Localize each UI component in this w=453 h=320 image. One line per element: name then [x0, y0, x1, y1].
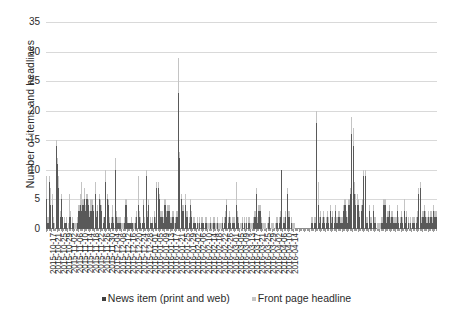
x-axis-tick-labels: 2015-10-172015-10-212015-10-252015-10-29…	[46, 233, 437, 287]
bar-news-item	[210, 223, 211, 229]
y-tick-label: 15	[14, 135, 40, 145]
legend-swatch-icon	[102, 297, 106, 301]
bar-news-item	[214, 223, 215, 229]
plot-area	[46, 22, 437, 229]
bar-news-item	[269, 217, 270, 229]
bar-news-item	[120, 223, 121, 229]
y-tick-label: 0	[14, 224, 40, 234]
legend-item[interactable]: News item (print and web)	[102, 292, 230, 304]
y-tick-label: 20	[14, 106, 40, 116]
bar-news-item	[408, 223, 409, 229]
bar-news-item	[172, 217, 173, 229]
bar-news-item	[365, 176, 366, 229]
bar-news-item	[244, 223, 245, 229]
bar-news-item	[132, 223, 133, 229]
bar-news-item	[217, 223, 218, 229]
y-tick-label: 25	[14, 76, 40, 86]
legend-label: News item (print and web)	[108, 292, 230, 304]
bar-news-item	[197, 223, 198, 229]
bar-news-item	[249, 223, 250, 229]
bar-news-item	[66, 223, 67, 229]
y-tick-label: 30	[14, 47, 40, 57]
legend-item[interactable]: Front page headline	[252, 292, 351, 304]
bar-news-item	[291, 223, 292, 229]
y-tick-label: 35	[14, 17, 40, 27]
chart-legend: News item (print and web)Front page head…	[0, 292, 453, 304]
bar-news-item	[261, 223, 262, 229]
bar-news-item	[281, 170, 282, 229]
bar-chart: Number of items and headlines 0510152025…	[0, 0, 453, 320]
bar-news-item	[53, 223, 54, 229]
bar-news-item	[206, 223, 207, 229]
bar-front-page-headline	[293, 223, 294, 229]
bars-layer	[46, 22, 437, 229]
x-tick-label: 2016-04-14	[292, 233, 300, 274]
bar-news-item	[73, 223, 74, 229]
bar-news-item	[436, 217, 437, 229]
y-tick-label: 10	[14, 165, 40, 175]
x-tick-mark	[436, 229, 437, 231]
legend-label: Front page headline	[258, 292, 351, 304]
legend-swatch-icon	[252, 297, 256, 301]
y-tick-label: 5	[14, 194, 40, 204]
bar-news-item	[238, 223, 239, 229]
bar-news-item	[375, 223, 376, 229]
